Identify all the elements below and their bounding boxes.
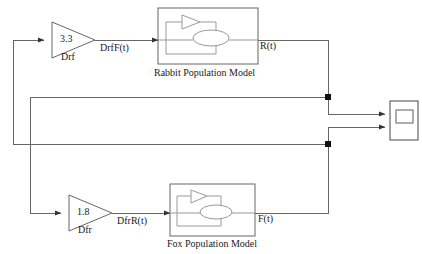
gain-dfr-value: 1.8 [77,207,90,217]
scope-block[interactable] [390,101,418,140]
wire-rt-to-scope [328,97,385,114]
subsystem-block-rabbit[interactable] [158,8,258,64]
gain-dfr-name: Dfr [78,225,92,235]
wire-ft-to-scope [328,127,385,144]
signal-label-ft: F(t) [258,214,273,224]
gain-drf-value: 3.3 [60,34,73,44]
caption-rabbit-model: Rabbit Population Model [154,68,255,78]
signal-label-drff: DrfF(t) [100,43,129,53]
junction-dot-rt [325,94,331,100]
block-diagram-canvas: 3.3 Drf DrfF(t) Rabbit Population Model … [0,0,422,254]
gain-drf-name: Drf [61,52,75,62]
signal-label-dfrr: DfrR(t) [117,216,147,226]
signal-label-rt: R(t) [260,41,276,51]
junction-dot-ft [325,141,331,147]
caption-fox-model: Fox Population Model [167,239,257,249]
wire-fox-to-bus [255,144,328,213]
subsystem-block-fox[interactable] [170,184,255,236]
